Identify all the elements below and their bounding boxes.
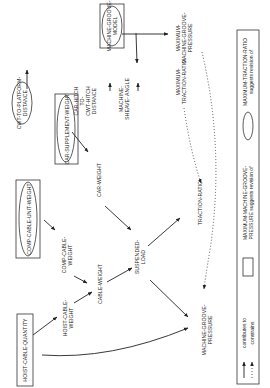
svg-text:CAR-WEIGHT: CAR-WEIGHT xyxy=(96,162,102,197)
node-maximum-machine-groove-pressure[interactable]: MAXIMUM- MACHINE-GROOVE- PRESSURE xyxy=(175,12,193,63)
svg-text:COMP-CABLE-UNIT-WEIGHT: COMP-CABLE-UNIT-WEIGHT xyxy=(26,183,32,255)
node-cwt-to-platform-distance[interactable]: CWT-TO-PLATFORM- DISTANCE xyxy=(16,77,28,130)
edge-cableweight-to-suspended xyxy=(107,268,132,282)
node-comp-cable-weight[interactable]: COMP-CABLE- WEIGHT xyxy=(61,236,73,273)
node-comp-cable-unit-weight[interactable]: COMP-CABLE-UNIT-WEIGHT xyxy=(26,183,32,255)
legend-solid-arrow-text: contributes to xyxy=(241,318,247,348)
svg-text:MODEL: MODEL xyxy=(112,17,118,36)
svg-text:SHEAVE- ANGLE: SHEAVE- ANGLE xyxy=(124,78,130,120)
node-hoist-cable-quantity[interactable]: HOIST-CABLE-QUANTITY xyxy=(22,318,28,382)
svg-text:LOAD: LOAD xyxy=(140,250,146,265)
node-maximum-traction-ratio[interactable]: MAXIMUM- TRACTION-RATIO xyxy=(175,60,187,104)
edge-carweight-to-suspended xyxy=(105,206,131,230)
edge-compweight-to-cableweight xyxy=(74,276,87,283)
edge-suspended-to-traction xyxy=(148,218,180,246)
node-machine-groove-pressure[interactable]: MACHINE-GROOVE- PRESSURE xyxy=(201,304,213,355)
node-traction-ratio[interactable]: TRACTION-RATIO xyxy=(197,181,203,225)
svg-text:contributes to: contributes to xyxy=(241,318,247,348)
legend-dotted-arrow-text: constrains xyxy=(249,321,255,344)
node-machine-sheave-angle[interactable]: MACHINE- SHEAVE- ANGLE xyxy=(118,78,130,120)
svg-text:CABLE-WEIGHT: CABLE-WEIGHT xyxy=(97,263,103,304)
legend-rectangle-text: MAXIMUM-MACHINE-GROOVE- PRESSURE suggest… xyxy=(242,166,254,241)
svg-text:HOIST-CABLE-QUANTITY: HOIST-CABLE-QUANTITY xyxy=(22,318,28,382)
svg-text:DISTANCE: DISTANCE xyxy=(91,87,97,114)
edge-suspended-to-groovepressure xyxy=(150,280,188,317)
svg-text:TRACTION-RATIO: TRACTION-RATIO xyxy=(197,181,203,225)
node-suspended-load[interactable]: SUSPENDED- LOAD xyxy=(134,240,146,275)
svg-text:CAR-SUPPLEMENT-WEIGHT: CAR-SUPPLEMENT-WEIGHT xyxy=(64,93,70,165)
legend-ellipse-icon xyxy=(243,112,253,140)
svg-text:DISTANCE: DISTANCE xyxy=(22,89,28,116)
legend-rectangle-icon xyxy=(243,258,253,276)
node-car-hitch-to-cwt-hitch-distance[interactable]: CAR-HITCH TO- CWT-HITCH DISTANCE xyxy=(73,86,97,116)
edge-maxtraction-constrains-traction xyxy=(184,108,201,183)
edge-hoistqty-to-hoistweight xyxy=(33,317,57,335)
svg-text:WEIGHT: WEIGHT xyxy=(67,244,73,266)
edge-groovemodel-to-maxtraction xyxy=(136,33,137,63)
svg-text:WEIGHT: WEIGHT xyxy=(68,307,74,329)
node-hoist-cable-weight[interactable]: HOIST-CABLE- WEIGHT xyxy=(62,299,74,336)
node-car-weight[interactable]: CAR-WEIGHT xyxy=(96,162,102,197)
edge-compunit-to-compweight xyxy=(44,220,55,230)
edge-hoistweight-to-cableweight xyxy=(74,292,92,303)
svg-text:PRESSURE: PRESSURE xyxy=(207,315,213,344)
node-cable-weight[interactable]: CABLE-WEIGHT xyxy=(97,263,103,304)
node-car-supplement-weight[interactable]: CAR-SUPPLEMENT-WEIGHT xyxy=(64,93,70,165)
legend-ellipse-text: MAXIMUM-TRACTION-RATIO suggests revision… xyxy=(242,38,254,106)
svg-text:PRESSURE: PRESSURE xyxy=(187,23,193,52)
svg-text:PRESSURE suggests revision of: PRESSURE suggests revision of xyxy=(248,166,254,240)
edge-maxpressure-constrains-groovepressure xyxy=(202,52,216,289)
svg-text:constrains: constrains xyxy=(249,321,255,344)
svg-text:suggests revision of: suggests revision of xyxy=(248,49,254,94)
svg-text:TRACTION-RATIO: TRACTION-RATIO xyxy=(181,60,187,104)
dependency-diagram: CWT-TO-PLATFORM- DISTANCE CAR-HITCH TO- … xyxy=(0,0,270,388)
